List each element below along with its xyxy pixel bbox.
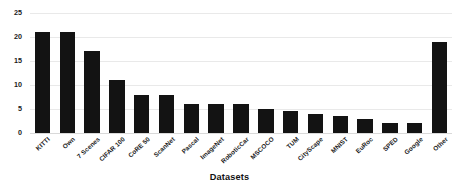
x-tick-label: TUM: [285, 136, 300, 150]
bar: [159, 95, 174, 133]
y-axis-tick-labels: 0510152025: [0, 13, 26, 133]
x-tick-label: MSCOCO: [249, 136, 275, 161]
bar: [357, 119, 372, 133]
y-tick-label: 5: [0, 105, 22, 112]
bar: [407, 123, 422, 133]
y-tick-label: 20: [0, 33, 22, 40]
x-tick-label: Own: [62, 136, 77, 150]
bar: [333, 116, 348, 133]
bar: [84, 51, 99, 133]
bar: [233, 104, 248, 133]
bar: [382, 123, 397, 133]
bar-series: [30, 13, 452, 133]
x-axis-tick-labels: KITTIOwn7 ScenesCIFAR 100CoRE 50ScanNetP…: [30, 134, 452, 174]
bar: [109, 80, 124, 133]
x-tick-label: MNIST: [330, 136, 349, 155]
y-tick-label: 10: [0, 81, 22, 88]
y-tick-label: 15: [0, 57, 22, 64]
plot-area: [30, 13, 452, 133]
x-tick-label: Google: [403, 136, 424, 156]
y-tick-label: 0: [0, 129, 22, 136]
x-tick-label: CoRE 50: [127, 136, 151, 159]
x-tick-label: KITTI: [35, 136, 51, 152]
bar: [432, 42, 447, 133]
bar: [283, 111, 298, 133]
bar-chart: 0510152025 KITTIOwn7 ScenesCIFAR 100CoRE…: [0, 0, 459, 194]
x-tick-label: EuRoc: [355, 136, 375, 155]
x-tick-label: SPED: [382, 136, 399, 153]
bar: [184, 104, 199, 133]
bar: [258, 109, 273, 133]
y-tick-label: 25: [0, 9, 22, 16]
bar: [35, 32, 50, 133]
x-tick-label: ScanNet: [152, 136, 176, 159]
x-axis-title: Datasets: [0, 172, 459, 182]
x-tick-label: Pascal: [181, 136, 201, 155]
bar: [60, 32, 75, 133]
bar: [134, 95, 149, 133]
x-tick-label: CityScape: [297, 136, 325, 162]
bar: [208, 104, 223, 133]
bar: [308, 114, 323, 133]
x-tick-label: Other: [432, 136, 449, 153]
x-tick-label: CIFAR 100: [98, 136, 126, 163]
